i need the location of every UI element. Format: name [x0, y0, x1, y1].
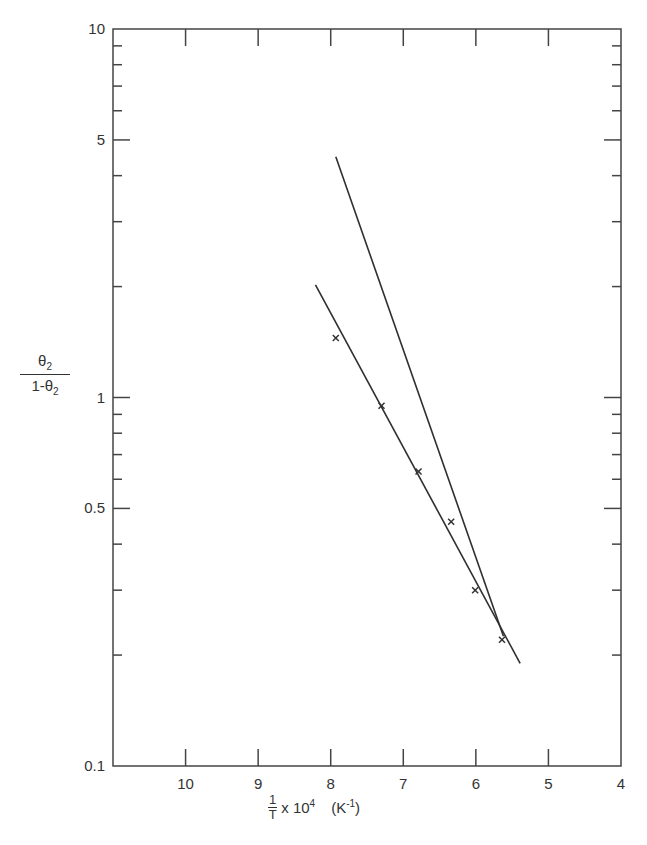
- x-tick-label: 7: [388, 776, 418, 791]
- data-points: [333, 335, 505, 643]
- x-axis-label: 1 T x 104 (K-1): [268, 793, 360, 821]
- y-label-numerator: θ2: [20, 352, 70, 375]
- y-tick-label: 0.5: [65, 500, 105, 515]
- x-tick-label: 6: [461, 776, 491, 791]
- y-tick-label: 0.1: [65, 758, 105, 773]
- y-tick-label: 10: [65, 21, 105, 36]
- data-point-x-marker: [448, 519, 454, 525]
- y-axis-label: θ2 1-θ2: [20, 352, 70, 397]
- x-label-fraction: 1 T: [268, 793, 277, 821]
- x-tick-label: 4: [606, 776, 636, 791]
- x-tick-label: 5: [533, 776, 563, 791]
- x-tick-label: 10: [171, 776, 201, 791]
- axis-ticks: [113, 29, 621, 766]
- y-tick-label: 5: [65, 132, 105, 147]
- x-label-units: (K-1): [331, 798, 360, 816]
- plot-frame: [113, 29, 621, 766]
- chart-canvas: [0, 0, 647, 845]
- data-point-x-marker: [333, 335, 339, 341]
- data-point-x-marker: [499, 637, 505, 643]
- y-label-denominator: 1-θ2: [20, 375, 70, 397]
- y-tick-label: 1: [65, 390, 105, 405]
- x-tick-label: 8: [316, 776, 346, 791]
- fit-lines: [315, 157, 520, 663]
- data-point-x-marker: [472, 587, 478, 593]
- fit-line-steep: [336, 157, 504, 636]
- x-label-multiplier: x 104: [281, 798, 315, 816]
- x-tick-label: 9: [243, 776, 273, 791]
- fit-line-shallow: [315, 285, 520, 663]
